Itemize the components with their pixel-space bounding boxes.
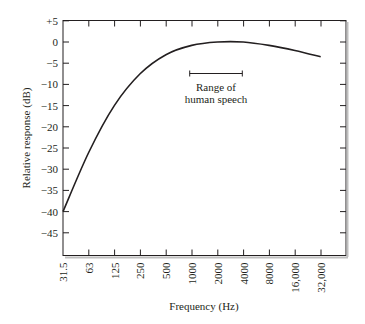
x-tick-label: 16,000: [289, 262, 301, 293]
frequency-response-chart: +50−5−10−15−20−25−30−35−40−45 31.5631252…: [0, 0, 365, 324]
x-axis: 31.563125250500100020004000800016,00032,…: [57, 21, 327, 293]
y-tick-label: +5: [46, 15, 58, 27]
x-tick-label: 500: [160, 262, 172, 279]
speech-range-annotation: Range of human speech: [185, 71, 248, 106]
y-tick-label: −25: [41, 142, 59, 154]
x-tick-label: 63: [83, 262, 95, 274]
y-tick-label: −5: [46, 57, 58, 69]
x-tick-label: 125: [109, 262, 121, 279]
y-axis-title: Relative response (dB): [20, 87, 33, 188]
y-tick-label: −10: [41, 78, 59, 90]
speech-range-label-line1: Range of: [196, 81, 236, 93]
y-tick-label: 0: [53, 36, 59, 48]
x-tick-label: 8000: [263, 262, 275, 285]
x-tick-label: 250: [134, 262, 146, 279]
y-tick-label: −30: [41, 163, 59, 175]
y-tick-label: −40: [41, 206, 59, 218]
y-tick-label: −20: [41, 121, 59, 133]
speech-range-label-line2: human speech: [185, 93, 248, 105]
x-tick-label: 32,000: [315, 262, 327, 293]
x-axis-title: Frequency (Hz): [169, 300, 239, 313]
x-tick-label: 4000: [238, 262, 250, 285]
y-tick-label: −15: [41, 100, 59, 112]
x-tick-label: 1000: [186, 262, 198, 285]
x-tick-label: 31.5: [57, 262, 69, 282]
y-axis: +50−5−10−15−20−25−30−35−40−45: [41, 15, 346, 239]
x-tick-label: 2000: [212, 262, 224, 285]
plot-frame: [63, 21, 346, 256]
response-curve: [63, 42, 321, 212]
y-tick-label: −35: [41, 184, 59, 196]
y-tick-label: −45: [41, 227, 59, 239]
